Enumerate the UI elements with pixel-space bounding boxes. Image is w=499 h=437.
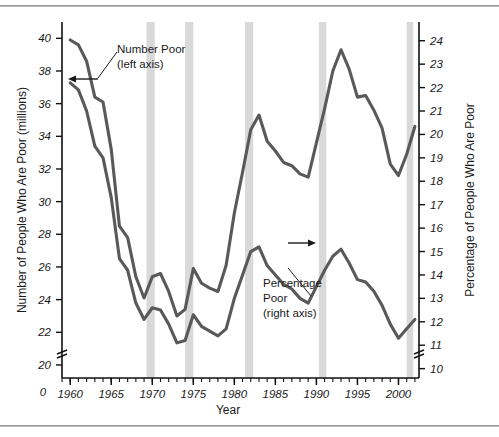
left-axis-tick-labels: 2022242628303234363840 xyxy=(37,32,51,371)
annotation-percentage-poor-line3: (right axis) xyxy=(263,307,317,319)
left-axis-ticks xyxy=(56,38,62,365)
x-axis-tick-label: 1995 xyxy=(345,388,371,400)
left-axis-tick-label: 22 xyxy=(37,326,51,338)
recession-band xyxy=(319,22,326,378)
left-axis-tick-label: 30 xyxy=(38,196,51,208)
recession-band xyxy=(147,22,155,378)
right-axis-tick-label: 10 xyxy=(430,363,443,375)
right-axis-tick-labels: 101112131415161718192021222324 xyxy=(429,35,443,375)
right-axis-tick-label: 14 xyxy=(430,269,443,281)
right-axis-tick-label: 12 xyxy=(430,316,443,328)
x-axis: 196019651970197519801985199019952000 0 xyxy=(40,378,419,400)
x-axis-origin-label: 0 xyxy=(40,386,47,398)
right-axis-ticks xyxy=(419,41,425,369)
left-axis-pointer-arrow xyxy=(68,76,98,83)
right-axis-tick-label: 22 xyxy=(429,82,443,94)
x-axis-tick-label: 1980 xyxy=(222,388,248,400)
left-axis-tick-label: 20 xyxy=(37,359,51,371)
x-axis-tick-label: 1985 xyxy=(263,388,289,400)
series-line-percentage-poor xyxy=(70,83,415,343)
left-axis-title: Number of People Who Are Poor (millions) xyxy=(15,87,29,313)
x-axis-title: Year xyxy=(216,403,240,417)
left-axis-tick-label: 28 xyxy=(37,228,51,240)
leader-line-number-poor xyxy=(98,52,117,78)
left-axis-tick-label: 40 xyxy=(38,32,51,44)
right-axis-tick-label: 11 xyxy=(430,339,442,351)
x-axis-tick-label: 1975 xyxy=(181,388,207,400)
top-divider-rule xyxy=(0,5,499,7)
right-axis-tick-label: 21 xyxy=(429,105,443,117)
right-axis-tick-label: 19 xyxy=(430,152,443,164)
right-axis-pointer-arrow xyxy=(288,240,316,247)
right-axis-tick-label: 17 xyxy=(430,199,443,211)
left-axis-tick-label: 24 xyxy=(37,294,51,306)
annotation-percentage-poor-line2: Poor xyxy=(263,292,287,304)
x-axis-tick-label: 1960 xyxy=(57,388,83,400)
left-axis-tick-label: 32 xyxy=(38,163,51,175)
right-axis-title: Percentage of People Who Are Poor xyxy=(463,103,477,296)
annotation-number-poor-line2: (left axis) xyxy=(117,58,164,70)
recession-bands-group xyxy=(147,22,414,378)
bottom-divider-rule xyxy=(0,425,499,427)
right-axis-tick-label: 18 xyxy=(430,175,443,187)
left-axis-tick-label: 38 xyxy=(38,65,51,77)
x-axis-tick-label: 1990 xyxy=(304,388,330,400)
right-axis-tick-label: 15 xyxy=(430,246,443,258)
annotation-percentage-poor-line1: Percentage xyxy=(263,277,322,289)
left-axis-tick-label: 36 xyxy=(38,98,51,110)
x-axis-tick-label: 1965 xyxy=(98,388,124,400)
right-axis-tick-label: 23 xyxy=(429,58,443,70)
right-axis: 101112131415161718192021222324 xyxy=(414,22,443,378)
left-axis-tick-label: 34 xyxy=(38,130,51,142)
left-axis: 2022242628303234363840 xyxy=(37,22,67,378)
line-chart-canvas: 2022242628303234363840 10111213141516171… xyxy=(0,0,499,437)
right-axis-tick-label: 20 xyxy=(429,128,443,140)
left-axis-tick-label: 26 xyxy=(37,261,51,273)
annotation-number-poor-line1: Number Poor xyxy=(117,43,186,55)
x-axis-tick-labels: 196019651970197519801985199019952000 xyxy=(57,388,411,400)
right-axis-tick-label: 13 xyxy=(430,292,443,304)
recession-band xyxy=(245,22,253,378)
poverty-chart-figure: 2022242628303234363840 10111213141516171… xyxy=(0,0,499,437)
annotation-number-poor: Number Poor (left axis) xyxy=(98,43,186,78)
x-axis-tick-label: 1970 xyxy=(139,388,165,400)
right-axis-tick-label: 24 xyxy=(429,35,443,47)
right-axis-tick-label: 16 xyxy=(430,222,443,234)
x-axis-tick-label: 2000 xyxy=(385,388,412,400)
